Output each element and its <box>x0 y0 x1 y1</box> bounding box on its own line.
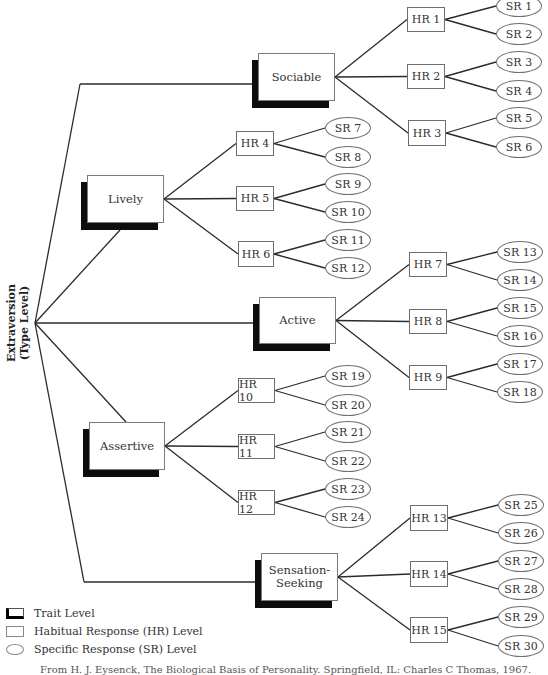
legend-item-hr: Habitual Response (HR) Level <box>6 622 246 640</box>
edge-active-to-hr <box>336 321 409 322</box>
edge-hr-to-sr <box>275 489 325 503</box>
edge-hr-to-sr <box>275 391 325 406</box>
sr-ellipse-icon <box>6 644 24 655</box>
edge-hr-to-sr <box>448 505 498 518</box>
legend-label-hr: Habitual Response (HR) Level <box>34 625 203 638</box>
sr-node: SR 6 <box>496 136 542 158</box>
hr-node: HR 5 <box>236 186 274 211</box>
sr-node: SR 14 <box>497 269 543 291</box>
sr-node: SR 5 <box>496 107 542 129</box>
hr-node: HR 15 <box>410 617 448 643</box>
legend-item-sr: Specific Response (SR) Level <box>6 640 246 658</box>
hr-node: HR 3 <box>408 120 446 146</box>
edge-assertive-to-hr <box>165 446 238 503</box>
edge-hr-to-sr <box>445 77 496 92</box>
trait-box-icon <box>6 608 24 619</box>
sr-node: SR 4 <box>496 80 542 102</box>
edge-hr-to-sr <box>274 184 325 199</box>
sr-node: SR 29 <box>498 606 544 628</box>
edge-hr-to-sr <box>447 322 497 337</box>
hr-node: HR 7 <box>409 252 447 277</box>
hr-node: HR 11 <box>238 434 275 459</box>
sr-node: SR 20 <box>325 394 371 416</box>
hr-node: HR 6 <box>238 241 274 267</box>
edge-hr-to-sr <box>448 574 498 589</box>
trait-label: Lively <box>108 193 143 206</box>
sr-node: SR 22 <box>325 450 371 472</box>
edge-lively-to-hr <box>164 144 236 200</box>
hr-node: HR 14 <box>410 561 448 587</box>
sr-node: SR 25 <box>498 494 544 516</box>
root-type-label: Extraversion (Type Level) <box>5 273 39 373</box>
sr-node: SR 30 <box>498 635 544 657</box>
edge-sensation-seeking-to-hr <box>338 577 410 630</box>
trait-box: Sociable <box>258 53 335 101</box>
sr-node: SR 21 <box>325 421 371 443</box>
edge-hr-to-sr <box>274 144 325 158</box>
edge-lively-to-hr <box>164 199 238 254</box>
trait-label: Sociable <box>272 71 322 84</box>
edge-hr-to-sr <box>274 128 325 144</box>
edge-root-to-sensation-seeking <box>35 323 84 582</box>
sr-node: SR 10 <box>325 201 371 223</box>
sr-node: SR 9 <box>325 173 371 195</box>
trait-box: Assertive <box>89 422 165 470</box>
hr-node: HR 10 <box>238 378 275 403</box>
trait-box: Active <box>259 297 336 344</box>
sr-node: SR 11 <box>325 229 371 251</box>
hr-node: HR 13 <box>410 505 448 531</box>
edge-hr-to-sr <box>448 518 498 533</box>
legend-label-trait: Trait Level <box>34 607 95 620</box>
edge-hr-to-sr <box>274 199 325 213</box>
edge-hr-to-sr <box>447 378 497 393</box>
sr-node: SR 12 <box>325 257 371 279</box>
root-label-line2: (Type Level) <box>18 273 31 373</box>
sr-node: SR 15 <box>497 297 543 319</box>
legend-label-sr: Specific Response (SR) Level <box>34 643 197 656</box>
edge-hr-to-sr <box>275 503 325 518</box>
edge-hr-to-sr <box>448 561 498 574</box>
hr-node: HR 2 <box>407 64 445 89</box>
extraversion-hierarchy-diagram: Extraversion (Type Level) SociableHR 1SR… <box>0 0 548 675</box>
edge-lively-to-hr <box>164 199 236 200</box>
edge-sensation-seeking-to-hr <box>338 574 410 577</box>
sr-node: SR 26 <box>498 522 544 544</box>
edge-hr-to-sr <box>448 630 498 646</box>
sr-node: SR 2 <box>496 23 542 45</box>
sr-node: SR 16 <box>497 325 543 347</box>
edge-assertive-to-hr <box>165 446 238 447</box>
edge-sociable-to-hr <box>335 77 407 78</box>
trait-box: Sensation-Seeking <box>261 553 338 601</box>
legend: Trait Level Habitual Response (HR) Level… <box>6 604 246 658</box>
edge-hr-to-sr <box>274 254 325 268</box>
sr-node: SR 23 <box>325 478 371 500</box>
sr-node: SR 28 <box>498 578 544 600</box>
edge-hr-to-sr <box>445 6 496 20</box>
edge-hr-to-sr <box>447 252 497 265</box>
trait-box: Lively <box>87 175 164 223</box>
edge-hr-to-sr <box>275 376 325 391</box>
edge-hr-to-sr <box>274 240 325 254</box>
edge-hr-to-sr <box>275 432 325 447</box>
hr-node: HR 9 <box>409 365 447 390</box>
legend-item-trait: Trait Level <box>6 604 246 622</box>
hr-node: HR 4 <box>236 131 274 156</box>
edge-assertive-to-hr <box>165 391 238 447</box>
sr-node: SR 13 <box>497 241 543 263</box>
sr-node: SR 8 <box>325 146 371 168</box>
edge-hr-to-sr <box>275 447 325 462</box>
sr-node: SR 7 <box>325 117 371 139</box>
edge-hr-to-sr <box>448 617 498 630</box>
edge-root-to-assertive <box>35 323 126 422</box>
edge-hr-to-sr <box>445 62 496 77</box>
edge-hr-to-sr <box>447 308 497 322</box>
edge-hr-to-sr <box>447 364 497 378</box>
edge-hr-to-sr <box>445 20 496 35</box>
sr-node: SR 24 <box>325 506 371 528</box>
edge-hr-to-sr <box>446 133 496 147</box>
trait-label-line2: Seeking <box>269 577 330 590</box>
figure-caption: From H. J. Eysenck, The Biological Basis… <box>40 664 548 675</box>
root-label-line1: Extraversion <box>5 273 18 373</box>
trait-label: Sensation-Seeking <box>269 564 330 590</box>
edge-hr-to-sr <box>447 265 497 281</box>
